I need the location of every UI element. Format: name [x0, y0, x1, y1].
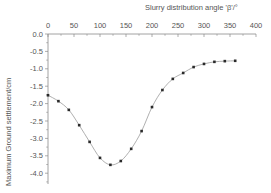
data-point-marker [192, 66, 195, 69]
data-point-marker [224, 60, 227, 63]
y-tick-label: -2.5 [30, 117, 43, 126]
x-tick-label: 300 [198, 21, 211, 30]
y-tick-label: -3.0 [30, 134, 43, 143]
x-tick-label: 200 [146, 21, 159, 30]
data-point-marker [161, 89, 164, 92]
data-point-marker [151, 106, 154, 109]
x-tick-label: 100 [94, 21, 107, 30]
x-axis-title: Slurry distribution angle 'β'/° [145, 3, 238, 12]
data-point-marker [213, 61, 216, 64]
y-axis-title: Maximum Ground settlement/cm [4, 78, 13, 186]
x-tick-label: 0 [46, 21, 50, 30]
y-tick-label: 0.0 [33, 30, 43, 39]
y-axis-ticks: 0.0-0.5-1.0-1.5-2.0-2.5-3.0-3.5-4.0 [30, 30, 48, 182]
x-tick-label: 250 [172, 21, 185, 30]
data-point-marker [99, 157, 102, 160]
y-tick-label: -2.0 [30, 99, 43, 108]
data-point-marker [88, 141, 91, 144]
data-point-marker [182, 72, 185, 75]
x-tick-label: 150 [120, 21, 133, 30]
data-markers [47, 59, 237, 166]
data-point-marker [109, 164, 112, 167]
x-axis-ticks: 050100150200250300350400 [46, 21, 262, 37]
data-point-marker [57, 100, 60, 103]
data-point-marker [140, 130, 143, 133]
y-tick-label: -4.0 [30, 169, 43, 178]
data-point-marker [120, 160, 123, 163]
settlement-chart: Slurry distribution angle 'β'/° 05010015… [0, 0, 271, 193]
y-tick-label: -1.5 [30, 82, 43, 91]
data-point-marker [130, 148, 133, 151]
data-point-marker [78, 124, 81, 127]
settlement-curve [48, 61, 235, 165]
data-point-marker [47, 94, 50, 97]
data-point-marker [203, 63, 206, 66]
x-tick-label: 400 [250, 21, 263, 30]
data-point-marker [172, 78, 175, 81]
data-point-marker [234, 59, 237, 62]
x-tick-label: 350 [224, 21, 237, 30]
y-tick-label: -1.0 [30, 64, 43, 73]
data-point-marker [68, 109, 71, 112]
x-tick-label: 50 [70, 21, 78, 30]
y-tick-label: -0.5 [30, 47, 43, 56]
y-tick-label: -3.5 [30, 151, 43, 160]
